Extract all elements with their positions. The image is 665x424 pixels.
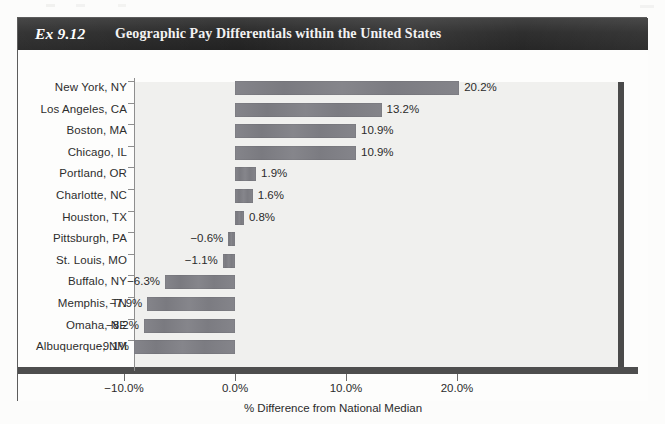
- y-axis-tick: [128, 254, 134, 255]
- x-axis-bar: [18, 367, 638, 374]
- y-axis-tick: [128, 167, 134, 168]
- bar: [165, 275, 235, 289]
- category-label: Houston, TX: [62, 211, 127, 223]
- category-label: Buffalo, NY: [68, 275, 127, 287]
- category-label: Chicago, IL: [68, 146, 127, 158]
- category-label: Portland, OR: [59, 167, 127, 179]
- y-axis-tick: [128, 211, 134, 212]
- y-axis-tick: [128, 146, 134, 147]
- scan-artifact: [46, 4, 55, 7]
- bar: [235, 103, 382, 117]
- bar-value-label: 10.9%: [361, 146, 394, 158]
- bar: [235, 146, 356, 160]
- scan-artifact: [118, 4, 126, 7]
- bar: [235, 211, 244, 225]
- y-axis-tick: [128, 232, 134, 233]
- bar-value-label: 0.8%: [249, 211, 275, 223]
- bar-value-label: 13.2%: [387, 103, 420, 115]
- bar-value-label: −7.9%: [109, 297, 142, 309]
- x-axis-tick-label: −10.0%: [89, 382, 159, 394]
- x-axis-tick: [346, 374, 347, 381]
- x-axis-tick-label: 10.0%: [311, 382, 381, 394]
- bar-value-label: −8.2%: [106, 319, 139, 331]
- bar: [228, 232, 235, 246]
- x-axis-tick-label: 0.0%: [200, 382, 270, 394]
- bar: [235, 189, 253, 203]
- exhibit-number: Ex 9.12: [35, 25, 86, 43]
- bar: [134, 340, 235, 354]
- x-axis-tick: [457, 374, 458, 381]
- bar-value-label: −9.1%: [96, 340, 129, 352]
- bar: [235, 81, 459, 95]
- exhibit-title: Geographic Pay Differentials within the …: [115, 26, 441, 42]
- y-axis-tick: [128, 124, 134, 125]
- y-axis-tick: [128, 103, 134, 104]
- bar: [144, 319, 235, 333]
- y-axis-tick: [128, 81, 134, 82]
- plot-right-border: [618, 82, 624, 369]
- bar: [147, 297, 235, 311]
- bar: [235, 124, 356, 138]
- category-label: St. Louis, MO: [56, 254, 127, 266]
- x-axis-tick-label: 20.0%: [422, 382, 492, 394]
- y-axis-tick: [128, 189, 134, 190]
- x-axis-tick: [235, 374, 236, 381]
- bar-value-label: 10.9%: [361, 124, 394, 136]
- category-label: Charlotte, NC: [56, 189, 127, 201]
- scanned-page: Ex 9.12 Geographic Pay Differentials wit…: [0, 0, 665, 424]
- category-label: Boston, MA: [67, 124, 127, 136]
- bar-chart: New York, NYLos Angeles, CABoston, MAChi…: [18, 50, 648, 401]
- category-label: Pittsburgh, PA: [53, 232, 127, 244]
- bar: [235, 167, 256, 181]
- bar-value-label: 1.6%: [258, 189, 284, 201]
- bar-value-label: 20.2%: [464, 81, 497, 93]
- bar: [223, 254, 235, 268]
- exhibit-box: Ex 9.12 Geographic Pay Differentials wit…: [17, 17, 647, 401]
- category-label: New York, NY: [55, 81, 127, 93]
- bar-value-label: −0.6%: [190, 232, 223, 244]
- category-label: Los Angeles, CA: [40, 103, 127, 115]
- bar-value-label: −6.3%: [127, 275, 160, 287]
- x-axis-tick: [124, 374, 125, 381]
- x-axis-title: % Difference from National Median: [18, 402, 648, 414]
- scan-artifact: [640, 5, 654, 8]
- bar-value-label: −1.1%: [185, 254, 218, 266]
- scan-artifact: [76, 4, 85, 7]
- exhibit-title-band: Ex 9.12 Geographic Pay Differentials wit…: [18, 18, 648, 50]
- bar-value-label: 1.9%: [261, 167, 287, 179]
